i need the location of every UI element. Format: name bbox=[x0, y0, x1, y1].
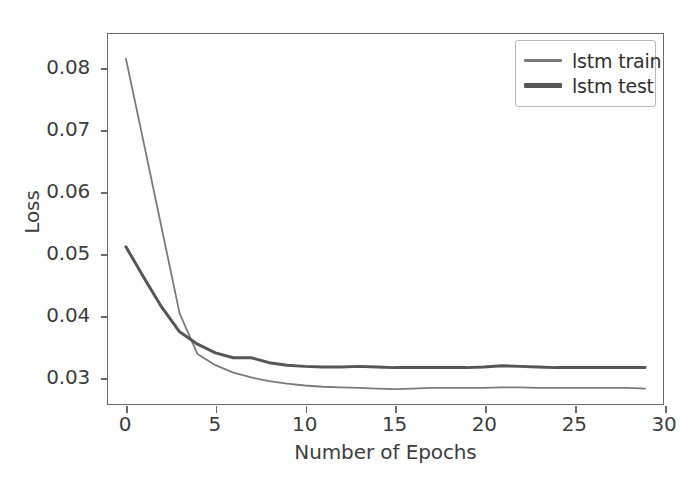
y-tick-mark bbox=[101, 316, 108, 318]
x-tick-label: 0 bbox=[119, 412, 132, 436]
figure-canvas: Loss 0.030.040.050.060.070.08 0510152025… bbox=[0, 0, 698, 487]
x-tick-label: 20 bbox=[472, 412, 497, 436]
x-axis-title: Number of Epochs bbox=[107, 440, 664, 464]
x-tick-label: 25 bbox=[562, 412, 587, 436]
y-tick-labels: 0.030.040.050.060.070.08 bbox=[0, 33, 99, 405]
y-tick-mark bbox=[101, 192, 108, 194]
y-tick-mark bbox=[101, 130, 108, 132]
series-line-lstm-train bbox=[126, 59, 645, 390]
legend-label-test: lstm test bbox=[572, 75, 654, 97]
x-tick-label: 30 bbox=[651, 412, 676, 436]
y-tick-label: 0.05 bbox=[46, 241, 90, 265]
x-tick-label: 10 bbox=[292, 412, 317, 436]
y-tick-label: 0.03 bbox=[46, 365, 90, 389]
x-tick-label: 5 bbox=[209, 412, 222, 436]
y-tick-label: 0.08 bbox=[46, 55, 90, 79]
y-tick-label: 0.07 bbox=[46, 117, 90, 141]
series-line-lstm-test bbox=[126, 247, 645, 368]
x-tick-label: 15 bbox=[382, 412, 407, 436]
legend-item-lstm-test[interactable]: lstm test bbox=[524, 73, 647, 98]
legend-item-lstm-train[interactable]: lstm train bbox=[524, 48, 647, 73]
legend-label-train: lstm train bbox=[572, 50, 661, 72]
legend[interactable]: lstm train lstm test bbox=[515, 40, 656, 107]
y-tick-mark bbox=[101, 68, 108, 70]
y-tick-label: 0.04 bbox=[46, 303, 90, 327]
legend-line-icon-train bbox=[524, 59, 562, 62]
legend-line-icon-test bbox=[524, 83, 562, 87]
y-tick-mark bbox=[101, 254, 108, 256]
y-tick-label: 0.06 bbox=[46, 179, 90, 203]
y-tick-mark bbox=[101, 378, 108, 380]
